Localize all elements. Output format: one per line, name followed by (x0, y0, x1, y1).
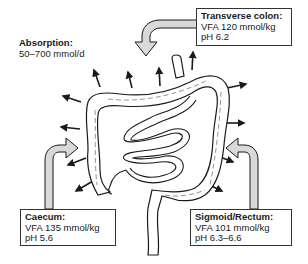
region-ph: pH 6.2 (201, 32, 287, 43)
caecum-box: Caecum: VFA 135 mmol/kg pH 5.6 (20, 209, 116, 246)
sigmoid-rectum-box: Sigmoid/Rectum: VFA 101 mmol/kg pH 6.3–6… (190, 209, 292, 246)
terminal-ileum (172, 55, 184, 78)
region-ph: pH 6.3–6.6 (195, 233, 287, 244)
absorption-label: Absorption: 50–700 mmol/d (19, 37, 84, 59)
region-name: Caecum: (25, 212, 111, 223)
region-name: Sigmoid/Rectum: (195, 212, 287, 223)
region-ph: pH 5.6 (25, 233, 111, 244)
region-name: Transverse colon: (201, 11, 287, 22)
small-intestine (109, 96, 196, 194)
sigmoid-arrow (226, 138, 258, 209)
absorption-title: Absorption: (19, 37, 73, 48)
caecum-arrow (45, 138, 78, 209)
transverse-colon-box: Transverse colon: VFA 120 mmol/kg pH 6.2 (196, 8, 292, 46)
absorption-value: 50–700 mmol/d (19, 48, 84, 59)
